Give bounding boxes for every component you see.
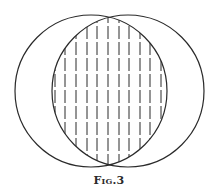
venn-diagram (0, 0, 218, 194)
left-circle (15, 15, 167, 167)
intersection-hatching (55, 10, 161, 172)
figure-caption: Fig.3 (0, 174, 218, 187)
right-circle (52, 15, 204, 167)
